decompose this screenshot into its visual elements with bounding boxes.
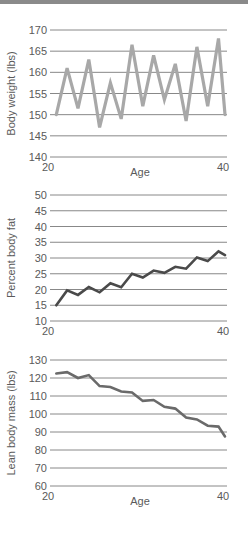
y-tick-label: 35 [35, 236, 47, 248]
y-tick-label: 110 [29, 390, 47, 402]
y-tick-label: 130 [29, 354, 47, 366]
y-axis-label: Lean body mass (lbs) [5, 370, 17, 475]
y-tick-label: 150 [29, 109, 47, 121]
x-tick-label-end: 40 [217, 325, 229, 337]
y-tick-label: 160 [29, 66, 47, 78]
y-tick-label: 50 [35, 189, 47, 201]
lean-body-mass-chart: 130120110100908070602040AgeLean body mas… [5, 354, 229, 507]
y-tick-label: 30 [35, 252, 47, 264]
x-tick-label-start: 20 [42, 490, 54, 502]
data-line [56, 251, 225, 305]
y-tick-label: 20 [35, 284, 47, 296]
y-tick-label: 15 [35, 299, 47, 311]
y-axis-label: Percent body fat [5, 218, 17, 298]
data-line [56, 39, 225, 128]
data-line [56, 372, 225, 436]
y-tick-label: 45 [35, 205, 47, 217]
body-weight-chart: 1701651601551501451402040AgeBody weight … [5, 24, 229, 178]
y-tick-label: 100 [29, 408, 47, 420]
x-axis-label: Age [130, 495, 150, 507]
x-tick-label-end: 40 [217, 490, 229, 502]
x-tick-label-start: 20 [42, 325, 54, 337]
y-tick-label: 165 [29, 45, 47, 57]
x-tick-label-start: 20 [42, 161, 54, 173]
y-tick-label: 70 [35, 462, 47, 474]
x-axis-label: Age [130, 166, 150, 178]
y-axis-label: Body weight (lbs) [5, 51, 17, 135]
charts-canvas: 1701651601551501451402040AgeBody weight … [0, 0, 248, 534]
y-tick-label: 145 [29, 130, 47, 142]
y-tick-label: 25 [35, 268, 47, 280]
y-tick-label: 90 [35, 426, 47, 438]
y-tick-label: 40 [35, 221, 47, 233]
x-tick-label-end: 40 [217, 161, 229, 173]
y-tick-label: 120 [29, 372, 47, 384]
y-tick-label: 170 [29, 24, 47, 36]
y-tick-label: 155 [29, 88, 47, 100]
percent-body-fat-chart: 5045403530252015102040Percent body fat [5, 189, 229, 337]
y-tick-label: 80 [35, 444, 47, 456]
